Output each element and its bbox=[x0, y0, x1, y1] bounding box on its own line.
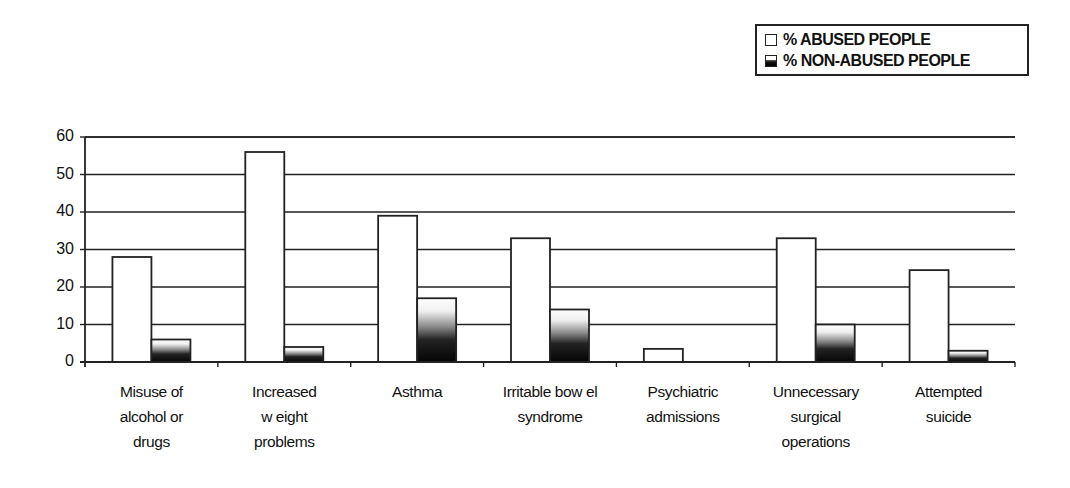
bar-abused bbox=[378, 216, 417, 362]
x-category-label: Increased w eight problems bbox=[219, 379, 349, 454]
legend-item-non-abused: % NON-ABUSED PEOPLE bbox=[765, 51, 970, 71]
dark-swatch-icon bbox=[765, 55, 777, 67]
bar-non-abused bbox=[949, 351, 988, 362]
bar-abused bbox=[644, 349, 683, 362]
y-tick-label: 30 bbox=[44, 240, 74, 258]
y-tick-label: 20 bbox=[44, 277, 74, 295]
white-swatch-icon bbox=[765, 34, 777, 46]
bar-abused bbox=[511, 238, 550, 362]
legend: % ABUSED PEOPLE % NON-ABUSED PEOPLE bbox=[755, 24, 1029, 76]
y-tick-label: 10 bbox=[44, 315, 74, 333]
y-tick-label: 60 bbox=[44, 127, 74, 145]
legend-label: % ABUSED PEOPLE bbox=[783, 31, 931, 49]
bar-non-abused bbox=[550, 310, 589, 363]
bar-abused bbox=[112, 257, 151, 362]
x-category-label: Asthma bbox=[352, 379, 482, 404]
bar-non-abused bbox=[284, 347, 323, 362]
x-category-label: Psychiatric admissions bbox=[618, 379, 748, 429]
y-tick-label: 0 bbox=[44, 352, 74, 370]
x-category-label: Misuse of alcohol or drugs bbox=[86, 379, 216, 454]
bar-abused bbox=[245, 152, 284, 362]
bar-non-abused bbox=[816, 325, 855, 363]
x-category-label: Attempted suicide bbox=[884, 379, 1014, 429]
legend-item-abused: % ABUSED PEOPLE bbox=[765, 30, 931, 50]
bar-non-abused bbox=[151, 340, 190, 363]
bar-chart: 0102030405060 Misuse of alcohol or drugs… bbox=[0, 0, 1070, 488]
bar-abused bbox=[777, 238, 816, 362]
y-tick-label: 40 bbox=[44, 202, 74, 220]
bar-abused bbox=[910, 270, 949, 362]
legend-label: % NON-ABUSED PEOPLE bbox=[783, 52, 970, 70]
y-tick-label: 50 bbox=[44, 165, 74, 183]
x-category-label: Irritable bow el syndrome bbox=[485, 379, 615, 429]
bar-non-abused bbox=[417, 298, 456, 362]
x-category-label: Unnecessary surgical operations bbox=[751, 379, 881, 454]
